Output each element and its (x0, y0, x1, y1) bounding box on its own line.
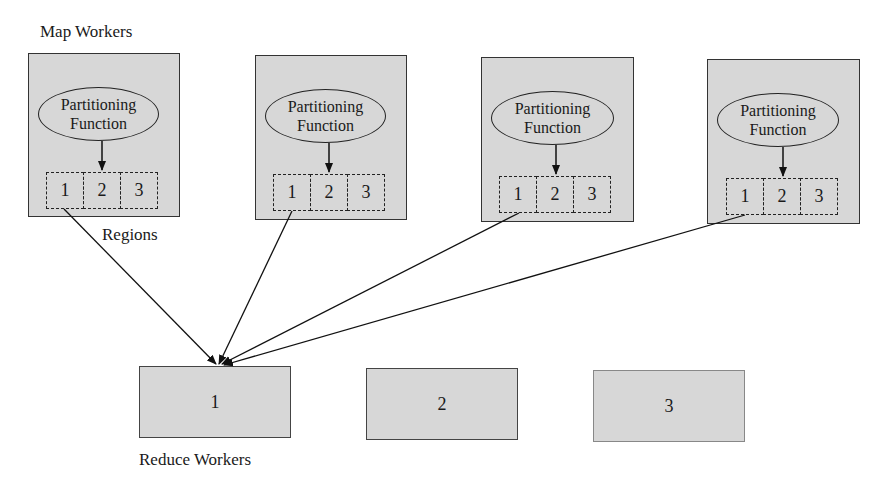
shuffle-arrow-3 (222, 213, 519, 364)
shuffle-arrow-4 (224, 215, 745, 365)
shuffle-arrow-2 (219, 211, 292, 364)
arrows-layer (0, 0, 872, 488)
shuffle-arrow-1 (64, 209, 216, 364)
